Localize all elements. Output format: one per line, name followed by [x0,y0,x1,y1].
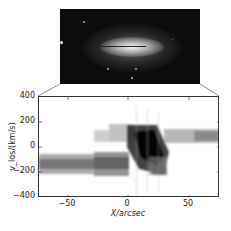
galaxy-core [100,37,164,57]
y-axis-label: v_los/(km/s) [8,117,17,177]
x-tick-label: 0 [112,200,142,208]
x-axis-label: X/arcsec [98,209,158,218]
star [83,21,85,23]
y-tick-label: 400 [7,92,35,100]
star [107,68,109,70]
star [131,77,133,79]
pv-diagram-plot [38,96,219,197]
star [60,41,63,44]
x-tick-label: 50 [173,200,203,208]
x-tick-label: −50 [52,200,82,208]
star [135,68,137,70]
galaxy-image [60,9,200,84]
pv-heatmap [39,97,219,197]
star [172,39,173,40]
slit-line [96,46,146,47]
y-tick-label: −400 [7,192,35,200]
